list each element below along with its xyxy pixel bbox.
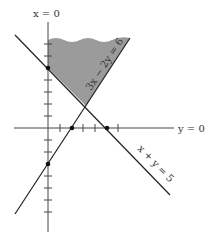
inequality-graph: x = 0 y = 0 3x − 2y = 6 x + y = 5 (0, 0, 208, 236)
point-0-5 (46, 66, 51, 71)
line-label-x-plus-y: x + y = 5 (136, 143, 177, 185)
point-5-0 (105, 126, 110, 131)
graph-canvas: x = 0 y = 0 3x − 2y = 6 x + y = 5 (0, 0, 208, 236)
point-0-neg3 (46, 162, 51, 167)
point-2-0 (70, 126, 75, 131)
vertical-axis-label: x = 0 (33, 8, 60, 19)
horizontal-axis-label: y = 0 (177, 123, 205, 134)
